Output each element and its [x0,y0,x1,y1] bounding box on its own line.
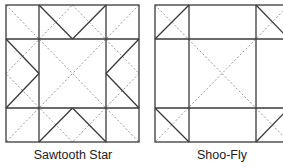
sawtooth-star-block [6,5,139,142]
sawtooth-star-label: Sawtooth Star [6,148,140,162]
quilt-diagrams [0,0,283,168]
shoo-fly-label: Shoo-Fly [155,148,283,162]
shoo-fly-block [155,5,283,142]
